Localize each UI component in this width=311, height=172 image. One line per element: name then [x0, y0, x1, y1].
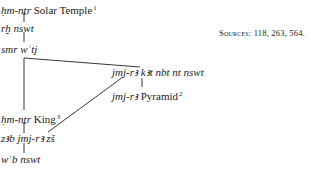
node-overseer-works: jmj-rꜣ kꜣt nbt nt nswt — [112, 66, 204, 78]
footnote-marker: 3 — [57, 113, 61, 121]
node-smr-wctj: smr wʿtj — [1, 43, 37, 55]
sources-note: Sources: 118, 263, 564. — [219, 28, 305, 38]
translit: zꜣb jmj-rꜣ zš — [1, 132, 55, 144]
node-wcb-nswt: wʿb nswt — [1, 153, 40, 165]
translit: ḥm-nṯr — [1, 113, 31, 125]
label: Solar Temple — [34, 4, 93, 16]
translit: smr wʿtj — [1, 43, 37, 55]
node-rh-nswt: rḫ nswt — [1, 22, 34, 34]
translit: rḫ nswt — [1, 22, 34, 34]
footnote-marker: 1 — [93, 4, 97, 12]
footnote-marker: 2 — [179, 90, 183, 98]
node-pyramid-overseer: jmj-rꜣ Pyramid2 — [112, 88, 183, 102]
label: Pyramid — [141, 90, 178, 102]
translit: jmj-rꜣ — [112, 90, 138, 102]
node-zab-scribe: zꜣb jmj-rꜣ zš — [1, 132, 55, 144]
node-king-priest: ḥm-nṯr King3 — [1, 111, 60, 125]
label: King — [34, 113, 56, 125]
translit: jmj-rꜣ kꜣt nbt nt nswt — [112, 66, 204, 78]
connector-lines — [0, 0, 311, 172]
translit: wʿb nswt — [1, 153, 40, 165]
node-solar-temple-priest: ḥm-nṯr Solar Temple1 — [1, 2, 97, 16]
translit: ḥm-nṯr — [1, 4, 31, 16]
